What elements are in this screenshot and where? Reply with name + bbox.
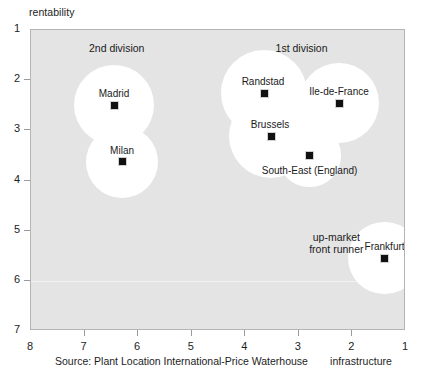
point-label-madrid: Madrid — [99, 88, 130, 99]
x-tick-label-8: 8 — [20, 340, 40, 352]
data-point-ile-de-france — [336, 100, 343, 107]
x-tick-7 — [84, 330, 85, 336]
y-tick-5 — [24, 230, 30, 231]
y-tick-label-3: 3 — [0, 122, 20, 134]
annotation-up-market-line2: front runner — [309, 243, 363, 255]
x-tick-2 — [351, 330, 352, 336]
x-tick-label-7: 7 — [74, 340, 94, 352]
x-tick-label-5: 5 — [181, 340, 201, 352]
y-axis-title: rentability — [29, 6, 75, 18]
point-label-ile-de-france: Ile-de-France — [309, 86, 368, 97]
point-label-brussels: Brussels — [251, 119, 289, 130]
data-point-frankfurt — [381, 255, 388, 262]
x-tick-6 — [137, 330, 138, 336]
x-axis-title: infrastructure — [330, 355, 392, 367]
x-tick-label-3: 3 — [288, 340, 308, 352]
data-point-milan — [119, 158, 126, 165]
annotation-up-market-front-runner: up-market front runner — [309, 231, 363, 255]
annotation-up-market-line1: up-market — [309, 231, 363, 243]
data-point-madrid — [111, 102, 118, 109]
y-tick-6 — [24, 280, 30, 281]
x-tick-5 — [191, 330, 192, 336]
source-caption: Source: Plant Location International-Pri… — [55, 355, 308, 367]
x-tick-label-2: 2 — [341, 340, 361, 352]
annotation-1st-division: 1st division — [276, 42, 328, 54]
data-point-south-east — [306, 152, 313, 159]
y-tick-label-1: 1 — [0, 22, 20, 34]
plot-area: 2nd division 1st division up-market fron… — [30, 29, 405, 330]
point-label-milan: Milan — [110, 145, 134, 156]
y-tick-label-6: 6 — [0, 273, 20, 285]
y-tick-2 — [24, 79, 30, 80]
x-tick-label-1: 1 — [395, 340, 415, 352]
data-point-randstad — [261, 90, 268, 97]
y-tick-3 — [24, 129, 30, 130]
x-tick-label-6: 6 — [127, 340, 147, 352]
annotation-2nd-division: 2nd division — [89, 42, 144, 54]
x-tick-3 — [298, 330, 299, 336]
y-tick-4 — [24, 180, 30, 181]
x-tick-4 — [244, 330, 245, 336]
y-tick-label-5: 5 — [0, 223, 20, 235]
point-label-frankfurt: Frankfurt — [365, 241, 405, 252]
y-tick-label-2: 2 — [0, 72, 20, 84]
gridline-rentability-6 — [31, 281, 404, 282]
x-tick-label-4: 4 — [234, 340, 254, 352]
point-label-randstad: Randstad — [242, 76, 285, 87]
point-label-south-east: South-East (England) — [262, 165, 358, 176]
y-tick-label-4: 4 — [0, 173, 20, 185]
data-point-brussels — [268, 133, 275, 140]
chart-container: rentability infrastructure 2nd division … — [0, 0, 422, 379]
y-tick-label-7: 7 — [0, 323, 20, 335]
